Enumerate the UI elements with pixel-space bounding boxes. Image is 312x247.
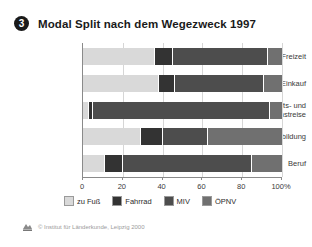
copyright-text: © Institut für Länderkunde, Leipzig 2000 (38, 224, 145, 230)
bar-segment[interactable] (105, 155, 123, 172)
x-tick-label: 100% (271, 182, 290, 191)
bar-segment[interactable] (208, 128, 282, 145)
x-tick-100 (281, 177, 282, 180)
legend-label: ÖPNV (215, 197, 236, 206)
x-tick-label: 80 (237, 182, 245, 191)
x-tick-40 (162, 177, 163, 180)
bar-segment[interactable] (175, 75, 265, 92)
bar-segment[interactable] (264, 75, 282, 92)
bar-segment[interactable] (159, 75, 175, 92)
legend-swatch (164, 196, 174, 206)
legend-item[interactable]: zu Fuß (64, 196, 100, 206)
bar-segment[interactable] (268, 48, 282, 65)
x-tick-label: 60 (197, 182, 205, 191)
bar-segment[interactable] (83, 48, 155, 65)
chart-title-row: 3 Modal Split nach dem Wegezweck 1997 (14, 16, 256, 31)
legend-swatch (112, 196, 122, 206)
bar-row[interactable] (83, 102, 282, 119)
category-label-beruf: Beruf (288, 159, 306, 168)
legend-item[interactable]: Fahrrad (112, 196, 151, 206)
bar-segment[interactable] (83, 155, 105, 172)
gridline-100 (282, 43, 283, 177)
bar-row[interactable] (83, 128, 282, 145)
figure-number-badge: 3 (14, 16, 29, 31)
bar-segment[interactable] (270, 102, 282, 119)
bar-row[interactable] (83, 48, 282, 65)
x-tick-20 (122, 177, 123, 180)
bar-row[interactable] (83, 75, 282, 92)
legend-swatch (64, 196, 74, 206)
bar-segment[interactable] (252, 155, 282, 172)
x-axis-line (82, 177, 282, 178)
chart-figure: 3 Modal Split nach dem Wegezweck 1997 Fr… (0, 0, 312, 247)
bar-segment[interactable] (93, 102, 270, 119)
category-label-einkauf: Einkauf (281, 79, 306, 88)
x-tick-0 (82, 177, 83, 180)
x-tick-label: 20 (118, 182, 126, 191)
legend-label: Fahrrad (125, 197, 151, 206)
bar-row[interactable] (83, 155, 282, 172)
institute-logo-icon (22, 222, 33, 232)
legend-item[interactable]: ÖPNV (202, 196, 236, 206)
page-title: Modal Split nach dem Wegezweck 1997 (38, 18, 256, 30)
x-tick-80 (241, 177, 242, 180)
x-tick-60 (201, 177, 202, 180)
plot-area (82, 43, 281, 177)
x-tick-label: 0 (80, 182, 84, 191)
bar-segment[interactable] (123, 155, 252, 172)
legend-label: zu Fuß (77, 197, 100, 206)
legend-item[interactable]: MIV (164, 196, 190, 206)
bar-segment[interactable] (83, 128, 141, 145)
legend-swatch (202, 196, 212, 206)
footer: © Institut für Länderkunde, Leipzig 2000 (22, 222, 145, 232)
bar-segment[interactable] (141, 128, 163, 145)
chart-legend: zu FußFahrradMIVÖPNV (64, 196, 243, 206)
bar-segment[interactable] (155, 48, 173, 65)
bar-segment[interactable] (173, 48, 269, 65)
x-tick-label: 40 (157, 182, 165, 191)
legend-label: MIV (177, 197, 190, 206)
bar-segment[interactable] (163, 128, 209, 145)
bar-segment[interactable] (83, 75, 159, 92)
category-label-freizeit: Freizeit (281, 52, 306, 61)
